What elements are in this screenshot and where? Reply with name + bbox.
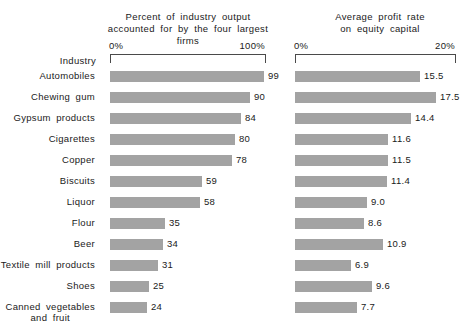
concentration-bar — [110, 239, 163, 250]
chart-row: Canned vegetablesand fruit247.7 — [0, 300, 472, 321]
concentration-track: 90 — [110, 90, 266, 106]
profit-rate-track: 7.7 — [295, 300, 456, 316]
row-label-line: and fruit — [6, 312, 95, 323]
chart-row: Flour358.6 — [0, 216, 472, 237]
concentration-bar-value: 58 — [204, 196, 215, 208]
concentration-bar-value: 35 — [169, 217, 180, 229]
concentration-bar — [110, 302, 147, 313]
concentration-bar — [110, 134, 235, 145]
row-label: Automobiles — [39, 70, 95, 81]
concentration-bar — [110, 155, 232, 166]
profit-rate-bar-value: 6.9 — [355, 259, 369, 271]
row-label: Cigarettes — [49, 133, 95, 144]
profit-rate-bar — [295, 281, 372, 292]
chart-row: Biscuits5911.4 — [0, 174, 472, 195]
right-panel-title-line-2: on equity capital — [300, 23, 460, 35]
chart-row: Copper7811.5 — [0, 153, 472, 174]
chart-row: Automobiles9915.5 — [0, 69, 472, 90]
left-axis-min-label: 0% — [109, 40, 123, 51]
concentration-bar-value: 25 — [153, 280, 164, 292]
row-label: Copper — [62, 154, 95, 165]
concentration-track: 99 — [110, 69, 266, 85]
profit-rate-track: 14.4 — [295, 111, 456, 127]
row-label: Flour — [72, 217, 95, 228]
row-label-line: Textile mill products — [1, 259, 95, 270]
concentration-bar-value: 34 — [167, 238, 178, 250]
chart-row: Chewing gum9017.5 — [0, 90, 472, 111]
row-label: Gypsum products — [14, 112, 95, 123]
industry-axis-label: Industry — [0, 55, 96, 66]
profit-rate-bar-value: 10.9 — [387, 238, 407, 250]
row-label-line: Chewing gum — [31, 91, 95, 102]
profit-rate-bar-value: 7.7 — [361, 301, 375, 313]
row-label: Canned vegetablesand fruit — [6, 301, 95, 323]
row-label-line: Copper — [62, 154, 95, 165]
right-panel-title: Average profit rate on equity capital — [300, 11, 460, 35]
concentration-bar — [110, 260, 158, 271]
row-label: Shoes — [67, 280, 95, 291]
concentration-bar-value: 90 — [254, 91, 265, 103]
profit-rate-bar-value: 17.5 — [440, 91, 460, 103]
left-panel-title-line-1: Percent of industry output — [96, 11, 280, 23]
concentration-bar-value: 59 — [206, 175, 217, 187]
row-label-line: Flour — [72, 217, 95, 228]
chart-row: Liquor589.0 — [0, 195, 472, 216]
concentration-bar — [110, 176, 202, 187]
right-panel-title-line-1: Average profit rate — [300, 11, 460, 23]
profit-rate-track: 10.9 — [295, 237, 456, 253]
concentration-track: 25 — [110, 279, 266, 295]
concentration-track: 78 — [110, 153, 266, 169]
concentration-track: 84 — [110, 111, 266, 127]
profit-rate-bar — [295, 197, 367, 208]
profit-rate-bar-value: 14.4 — [415, 112, 435, 124]
profit-rate-track: 11.6 — [295, 132, 456, 148]
profit-rate-bar — [295, 302, 357, 313]
chart-row: Cigarettes8011.6 — [0, 132, 472, 153]
profit-rate-bar-value: 11.6 — [392, 133, 411, 145]
concentration-bar-value: 80 — [239, 133, 250, 145]
profit-rate-track: 15.5 — [295, 69, 456, 85]
profit-rate-bar — [295, 92, 436, 103]
row-label: Beer — [74, 238, 95, 249]
row-label-line: Gypsum products — [14, 112, 95, 123]
row-label: Textile mill products — [1, 259, 95, 270]
concentration-bar — [110, 218, 165, 229]
profit-rate-bar — [295, 134, 388, 145]
profit-rate-track: 11.4 — [295, 174, 456, 190]
concentration-bar — [110, 197, 200, 208]
row-label-line: Canned vegetables — [6, 301, 95, 312]
row-label: Chewing gum — [31, 91, 95, 102]
concentration-track: 80 — [110, 132, 266, 148]
profit-rate-bar-value: 15.5 — [424, 70, 444, 82]
profit-rate-track: 11.5 — [295, 153, 456, 169]
concentration-bar-value: 24 — [151, 301, 162, 313]
concentration-track: 58 — [110, 195, 266, 211]
profit-rate-track: 17.5 — [295, 90, 456, 106]
concentration-bar-value: 31 — [162, 259, 173, 271]
profit-rate-bar — [295, 218, 364, 229]
row-label-line: Automobiles — [39, 70, 95, 81]
profit-rate-bar-value: 11.4 — [391, 175, 410, 187]
concentration-bar-value: 99 — [268, 70, 279, 82]
concentration-track: 35 — [110, 216, 266, 232]
concentration-track: 31 — [110, 258, 266, 274]
row-label: Liquor — [67, 196, 95, 207]
concentration-bar-value: 78 — [236, 154, 247, 166]
row-label: Biscuits — [60, 175, 95, 186]
chart-row: Textile mill products316.9 — [0, 258, 472, 279]
profit-rate-track: 9.0 — [295, 195, 456, 211]
concentration-bar — [110, 281, 149, 292]
chart-rows: Automobiles9915.5Chewing gum9017.5Gypsum… — [0, 69, 472, 321]
profit-rate-track: 9.6 — [295, 279, 456, 295]
profit-rate-bar-value: 9.0 — [371, 196, 385, 208]
concentration-bar — [110, 92, 250, 103]
profit-rate-bar — [295, 239, 383, 250]
profit-rate-bar — [295, 176, 387, 187]
row-label-line: Cigarettes — [49, 133, 95, 144]
concentration-track: 59 — [110, 174, 266, 190]
profit-rate-bar — [295, 155, 388, 166]
left-axis-max-label: 100% — [240, 40, 266, 51]
concentration-bar — [110, 71, 264, 82]
profit-rate-bar-value: 8.6 — [368, 217, 382, 229]
profit-rate-track: 6.9 — [295, 258, 456, 274]
